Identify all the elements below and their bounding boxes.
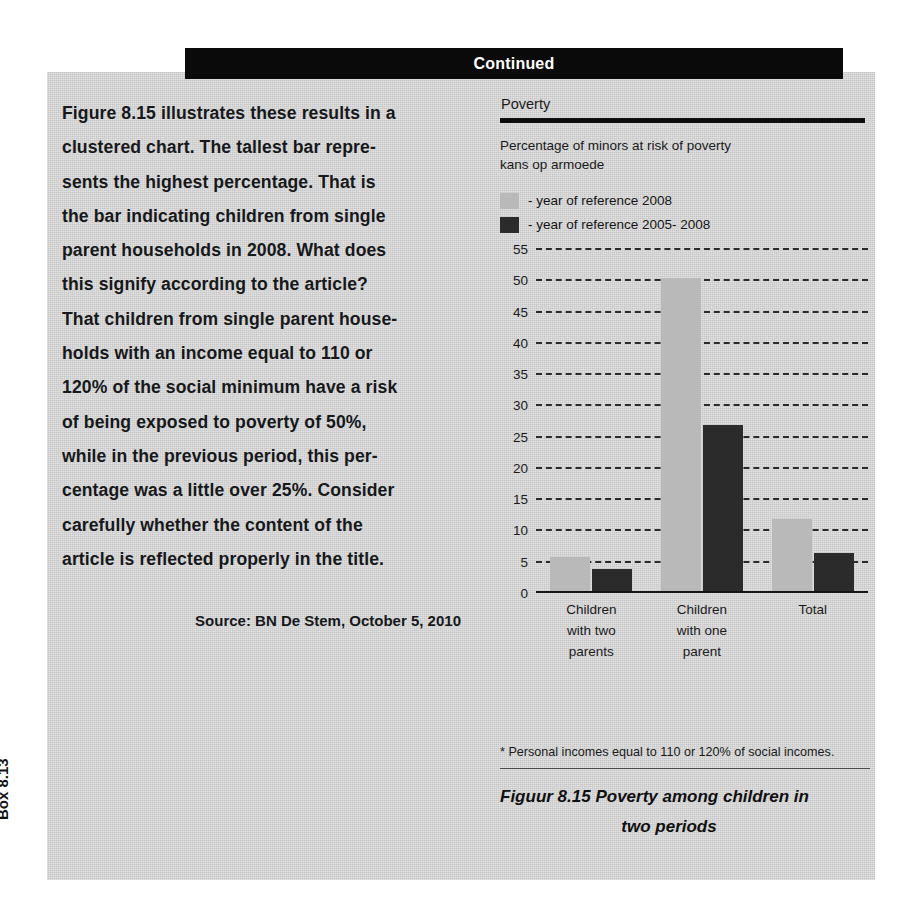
x-axis-label-1: Childrenwith oneparent (647, 599, 758, 662)
body-line: sents the highest percentage. That is (62, 165, 467, 199)
body-line: 120% of the social minimum have a risk (62, 370, 467, 404)
gridline-50 (536, 279, 868, 281)
x-axis-label-line: with one (647, 620, 758, 641)
x-axis-labels: Childrenwith twoparentsChildrenwith onep… (536, 599, 868, 669)
bar-2-0 (772, 519, 812, 591)
x-axis-baseline (536, 591, 868, 593)
source-attribution: Source: BN De Stem, October 5, 2010 (62, 612, 467, 629)
figure-caption-line: Figuur 8.15 Poverty among children in (500, 782, 878, 812)
y-axis-tick-10: 10 (500, 523, 528, 538)
body-line: Figure 8.15 illustrates these results in… (62, 96, 467, 130)
legend-swatch-icon (500, 217, 519, 233)
plot-area (536, 249, 868, 593)
x-axis-label-line: Children (536, 599, 647, 620)
bar-0-0 (550, 557, 590, 591)
y-axis-tick-5: 5 (500, 554, 528, 569)
chart-subtitle-line: Percentage of minors at risk of poverty (500, 136, 875, 155)
legend-label: - year of reference 2005- 2008 (528, 217, 710, 232)
y-axis-tick-20: 20 (500, 460, 528, 475)
x-axis-label-0: Childrenwith twoparents (536, 599, 647, 662)
gridline-30 (536, 404, 868, 406)
caption-divider (500, 768, 870, 769)
y-axis-tick-55: 55 (500, 242, 528, 257)
body-line: That children from single parent house- (62, 302, 467, 336)
body-line: while in the previous period, this per- (62, 439, 467, 473)
chart-subtitle-line: kans op armoede (500, 155, 875, 174)
y-axis-tick-30: 30 (500, 398, 528, 413)
y-axis-tick-40: 40 (500, 335, 528, 350)
x-axis-label-line: with two (536, 620, 647, 641)
bar-2-1 (814, 553, 854, 591)
y-axis-tick-0: 0 (500, 586, 528, 601)
body-line: parent households in 2008. What does (62, 233, 467, 267)
bar-1-1 (703, 425, 743, 591)
gridline-20 (536, 467, 868, 469)
body-line: the bar indicating children from single (62, 199, 467, 233)
chart-legend: - year of reference 2008- year of refere… (500, 190, 875, 235)
gridline-40 (536, 342, 868, 344)
bar-0-1 (592, 569, 632, 591)
gridline-15 (536, 498, 868, 500)
gridline-45 (536, 311, 868, 313)
legend-item-1: - year of reference 2005- 2008 (500, 214, 875, 235)
y-axis-tick-35: 35 (500, 367, 528, 382)
chart-title-rule (500, 118, 865, 123)
y-axis-tick-50: 50 (500, 273, 528, 288)
figure-caption: Figuur 8.15 Poverty among children in tw… (500, 782, 878, 842)
x-axis-label-2: Total (757, 599, 868, 620)
body-line: this signify according to the article? (62, 267, 467, 301)
legend-swatch-icon (500, 193, 519, 209)
x-axis-label-line: Total (757, 599, 868, 620)
gridline-35 (536, 373, 868, 375)
body-line: carefully whether the content of the (62, 508, 467, 542)
body-text-column: Figure 8.15 illustrates these results in… (62, 96, 467, 629)
legend-label: - year of reference 2008 (528, 193, 672, 208)
x-axis-label-line: parents (536, 641, 647, 662)
chart-footnote: * Personal incomes equal to 110 or 120% … (500, 745, 878, 759)
chart-subtitle: Percentage of minors at risk of poverty … (500, 136, 875, 174)
gridline-55 (536, 248, 868, 250)
box-number-label: Box 8.13 (0, 730, 11, 820)
chart-title: Poverty (501, 96, 875, 112)
gridline-25 (536, 436, 868, 438)
bar-1-0 (661, 278, 701, 591)
figure-caption-line: two periods (500, 812, 878, 842)
body-line: article is reflected properly in the tit… (62, 542, 467, 576)
x-axis-label-line: Children (647, 599, 758, 620)
body-line: holds with an income equal to 110 or (62, 336, 467, 370)
body-line: of being exposed to poverty of 50%, (62, 405, 467, 439)
chart-column: Poverty Percentage of minors at risk of … (500, 96, 875, 601)
body-line: clustered chart. The tallest bar repre- (62, 130, 467, 164)
y-axis-tick-25: 25 (500, 429, 528, 444)
y-axis-tick-45: 45 (500, 304, 528, 319)
y-axis-tick-15: 15 (500, 492, 528, 507)
x-axis-label-line: parent (647, 641, 758, 662)
chart-plot: 0510152025303540455055 Childrenwith twop… (500, 249, 875, 601)
continued-banner: Continued (185, 48, 843, 79)
body-line: centage was a little over 25%. Consider (62, 473, 467, 507)
continued-banner-label: Continued (474, 55, 555, 73)
legend-item-0: - year of reference 2008 (500, 190, 875, 211)
body-paragraph: Figure 8.15 illustrates these results in… (62, 96, 467, 576)
y-axis: 0510152025303540455055 (500, 249, 528, 593)
gridline-10 (536, 529, 868, 531)
